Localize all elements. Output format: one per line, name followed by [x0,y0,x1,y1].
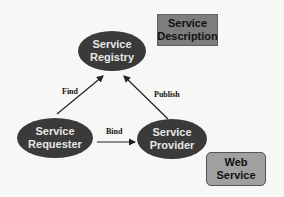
web-service-box: Web Service [206,152,266,186]
find-label: Find [62,87,78,96]
publish-label: Publish [154,90,180,99]
provider-node: Service Provider [137,119,207,159]
web-service-line1: Web [224,156,247,169]
description-line2: Description [157,30,218,43]
requester-node: Service Requester [17,118,93,158]
requester-label-line1: Service [35,125,74,138]
web-service-line2: Service [216,169,255,182]
description-line1: Service [168,17,207,30]
requester-label-line2: Requester [28,138,82,151]
soa-diagram: Service Registry Service Requester Servi… [0,0,284,197]
registry-label-line1: Service [92,38,131,51]
registry-label-line2: Registry [90,51,134,64]
service-description-box: Service Description [157,14,218,46]
provider-label-line2: Provider [150,139,195,152]
provider-label-line1: Service [152,126,191,139]
bind-label: Bind [106,127,122,136]
registry-node: Service Registry [78,31,146,71]
